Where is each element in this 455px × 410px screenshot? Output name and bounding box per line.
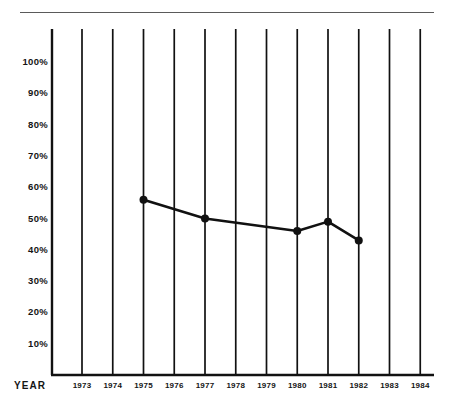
x-axis-tick-labels: 1973197419751976197719781979198019811982… bbox=[0, 0, 455, 410]
x-axis-title: YEAR bbox=[14, 380, 46, 391]
x-tick-1984: 1984 bbox=[400, 381, 440, 390]
chart-figure: 1975: 56%1977: 50%1980: 46%1981: 49%1982… bbox=[0, 0, 455, 410]
